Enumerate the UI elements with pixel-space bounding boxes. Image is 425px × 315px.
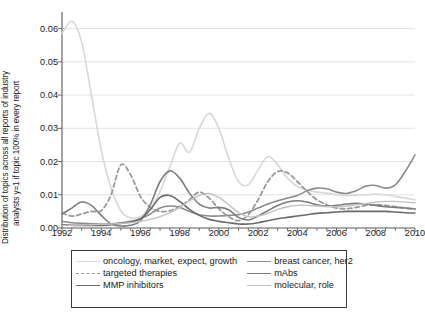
legend-swatch <box>247 267 274 279</box>
y-tick-label: 0.03 <box>40 123 58 133</box>
y-axis-title-line2: analysts y=1 if topic 100% in every repo… <box>11 81 22 226</box>
x-tick-label: 1992 <box>52 228 72 238</box>
y-tick-label: 0.04 <box>40 90 58 100</box>
x-tick-label: 1998 <box>169 228 189 238</box>
y-axis-title-line1: Distribution of topics across all report… <box>0 71 11 244</box>
x-tick-label: 2006 <box>326 228 346 238</box>
legend-table: oncology, market, expect, growthbreast c… <box>76 255 363 291</box>
legend-label: breast cancer, her2 <box>274 255 363 267</box>
legend-label: mAbs <box>274 267 363 279</box>
x-tick-label: 2004 <box>287 228 307 238</box>
legend-label: targeted therapies <box>103 267 247 279</box>
x-tick-label: 1996 <box>130 228 150 238</box>
chart-canvas <box>58 10 417 242</box>
legend-swatch <box>76 267 103 279</box>
gridlines <box>62 29 415 195</box>
legend-label: oncology, market, expect, growth <box>103 255 247 267</box>
x-tick-label: 2002 <box>248 228 268 238</box>
series-line-0 <box>62 21 415 218</box>
x-tick-label: 2010 <box>405 228 425 238</box>
plot-area: 0.000.010.020.030.040.050.06 <box>30 10 417 242</box>
legend-swatch <box>76 279 103 291</box>
legend-row: targeted therapiesmAbs <box>76 267 363 279</box>
x-tick-label: 1994 <box>91 228 111 238</box>
y-tick-label: 0.06 <box>40 24 58 34</box>
legend-swatch <box>76 255 103 267</box>
legend-label: MMP inhibitors <box>103 279 247 291</box>
legend-row: oncology, market, expect, growthbreast c… <box>76 255 363 267</box>
chart-legend: oncology, market, expect, growthbreast c… <box>71 250 347 308</box>
x-axis-tick-labels: 1992199419961998200020022004200620082010 <box>58 228 417 244</box>
legend-label: molecular, role <box>274 279 363 291</box>
axis-ticks <box>58 29 415 233</box>
x-tick-label: 2008 <box>366 228 386 238</box>
y-tick-label: 0.05 <box>40 57 58 67</box>
series-line-1 <box>62 155 415 224</box>
y-tick-label: 0.02 <box>40 157 58 167</box>
data-series <box>62 21 415 226</box>
legend-swatch <box>247 255 274 267</box>
y-axis-tick-labels: 0.000.010.020.030.040.050.06 <box>30 10 58 242</box>
y-axis-title: Distribution of topics across all report… <box>0 0 30 248</box>
legend-row: MMP inhibitorsmolecular, role <box>76 279 363 291</box>
x-tick-label: 2000 <box>209 228 229 238</box>
y-tick-label: 0.01 <box>40 190 58 200</box>
legend-swatch <box>247 279 274 291</box>
